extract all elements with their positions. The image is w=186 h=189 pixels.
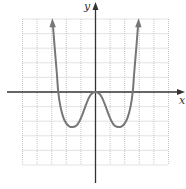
curve-arrow-right-icon [135, 18, 141, 27]
x-axis-label: x [179, 94, 186, 107]
y-axis-label: y [83, 0, 91, 13]
y-axis-arrow-icon [93, 2, 99, 10]
function-graph: x y [0, 0, 186, 189]
curve-arrow-left-icon [49, 18, 55, 27]
